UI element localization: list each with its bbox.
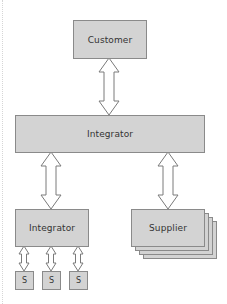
integrator-sub-node: Integrator: [15, 209, 89, 247]
double-arrow-icon: [99, 58, 119, 115]
sub-supplier-node-2: S: [42, 271, 61, 290]
sub-supplier-node-1: S: [15, 271, 34, 290]
supplier-label: Supplier: [149, 223, 187, 233]
double-arrow-icon: [73, 246, 83, 271]
integrator-main-label: Integrator: [87, 129, 133, 139]
sub-supplier-node-3: S: [69, 271, 88, 290]
integrator-sub-label: Integrator: [29, 223, 75, 233]
integrator-main-node: Integrator: [15, 115, 205, 153]
sub-supplier-label: S: [49, 276, 54, 285]
double-arrow-icon: [41, 152, 61, 209]
sub-supplier-label: S: [22, 276, 27, 285]
customer-node: Customer: [73, 20, 147, 59]
double-arrow-icon: [158, 152, 178, 209]
customer-label: Customer: [88, 35, 133, 45]
double-arrow-icon: [19, 246, 29, 271]
sub-supplier-label: S: [76, 276, 81, 285]
supplier-node: Supplier: [131, 209, 205, 247]
double-arrow-icon: [46, 246, 56, 271]
